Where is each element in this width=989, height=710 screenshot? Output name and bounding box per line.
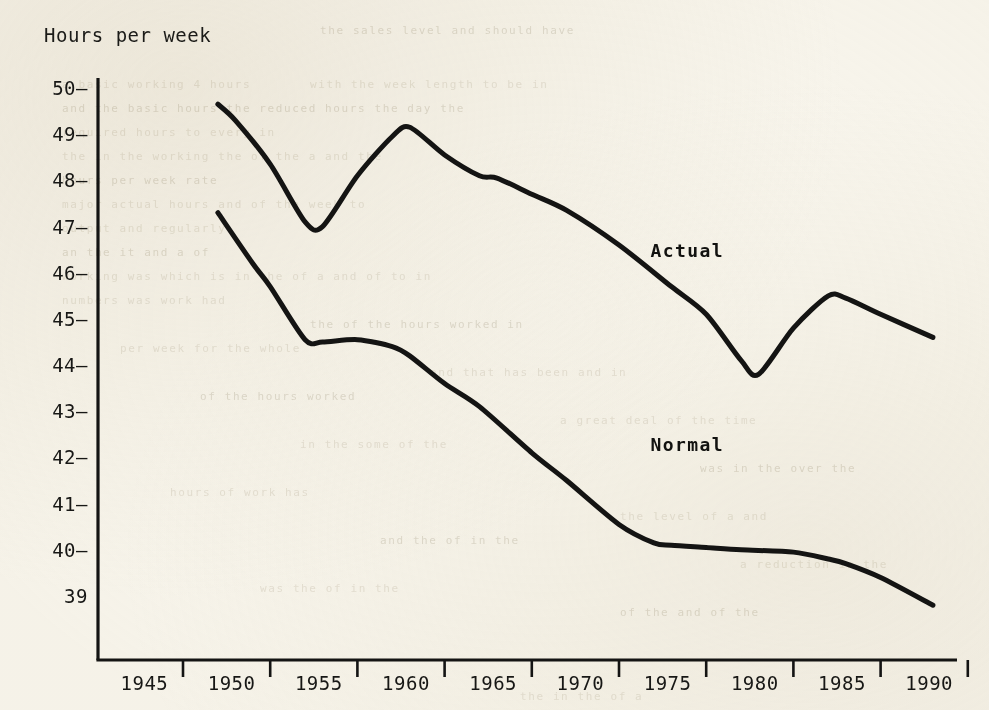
chart-page: the sales level and should havea basic w… <box>0 0 989 710</box>
data-series-lines <box>218 104 933 605</box>
series-line-normal <box>218 213 933 606</box>
axis-tick-marks <box>183 660 968 677</box>
series-line-actual <box>218 104 933 375</box>
axis-lines <box>96 78 957 660</box>
chart-canvas <box>0 0 989 710</box>
